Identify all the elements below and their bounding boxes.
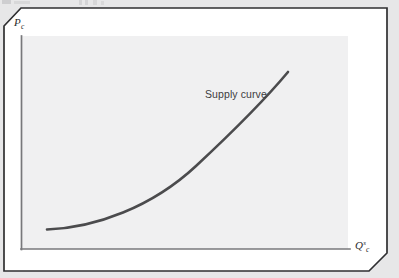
y-axis-label: Pc — [14, 17, 24, 28]
x-axis-symbol: Q — [355, 239, 363, 251]
x-axis-label: Qsc — [355, 240, 369, 251]
x-axis-subscript: c — [366, 245, 369, 254]
y-axis-subscript: c — [21, 22, 24, 31]
y-axis-symbol: P — [14, 16, 21, 28]
supply-curve-label: Supply curve — [205, 89, 267, 100]
plot-graphics — [0, 0, 399, 278]
